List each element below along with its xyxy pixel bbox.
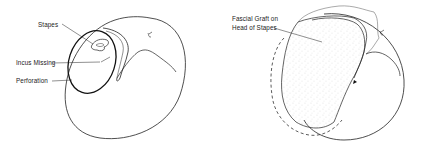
left-diagram-panel: Stapes Incus Missing Perforation — [0, 0, 214, 149]
incus-leader — [52, 62, 100, 63]
promontory-contour — [366, 52, 400, 76]
fascial-graft — [282, 16, 367, 128]
label-incus-missing: Incus Missing — [16, 59, 55, 67]
light-reflex-mark — [148, 32, 152, 37]
label-perforation: Perforation — [16, 77, 48, 85]
stapes-shape — [91, 39, 108, 51]
label-graft-line1: Fascial Graft on — [232, 15, 278, 23]
perforation-leader — [52, 80, 72, 81]
right-diagram-panel: Fascial Graft on Head of Stapes — [214, 0, 428, 149]
promontory-contour — [117, 50, 176, 78]
label-stapes: Stapes — [38, 21, 58, 29]
label-graft-line2: Head of Stapes — [232, 24, 277, 32]
eardrum-perforation-drawing — [0, 0, 214, 149]
